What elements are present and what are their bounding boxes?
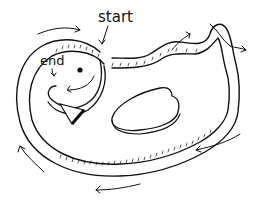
island-shape (112, 88, 179, 131)
flow-arrow-bottom (96, 184, 140, 193)
end-pointer-arrow (51, 69, 56, 76)
flow-arrow-bottom-left (18, 146, 44, 172)
inner-spiral-track (48, 60, 105, 114)
center-dot (77, 67, 82, 72)
spiral-arrow (67, 76, 94, 92)
island-shadow (112, 114, 180, 134)
start-label: start (98, 8, 133, 26)
flow-arrow-top-right (172, 32, 190, 50)
track-hatching (56, 45, 211, 165)
flow-arrow-right (210, 24, 246, 52)
track-diagram: start end (0, 0, 260, 205)
start-pointer-arrow (99, 26, 108, 44)
end-label: end (40, 53, 65, 68)
flow-arrow-top-left (38, 26, 80, 34)
